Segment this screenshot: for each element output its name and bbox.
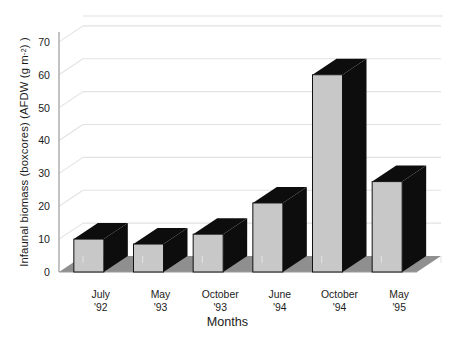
y-tick-label: 10	[28, 233, 50, 245]
x-tick-year: '95	[360, 301, 438, 314]
x-tick-month: May	[360, 288, 438, 301]
gridline-depth	[59, 92, 83, 108]
bar-side-face	[343, 59, 367, 272]
y-tick-label: 70	[28, 36, 50, 48]
bar-4	[313, 59, 367, 272]
plot-area	[57, 14, 445, 286]
x-axis-title: Months	[0, 315, 455, 329]
gridline-depth	[59, 190, 83, 206]
gridline-depth	[59, 59, 83, 75]
gridline-depth	[59, 26, 83, 42]
bars-group	[74, 59, 426, 272]
y-tick-label: 30	[28, 167, 50, 179]
y-tick-label: 50	[28, 102, 50, 114]
bar-side-face	[402, 166, 426, 272]
plot-svg	[57, 14, 445, 286]
bar-5	[372, 166, 426, 272]
y-tick-label: 60	[28, 69, 50, 81]
bar-front-face	[193, 234, 223, 272]
gridline-depth	[59, 157, 83, 173]
bar-front-face	[313, 75, 343, 272]
bar-front-face	[134, 244, 164, 272]
bar-front-face	[253, 203, 283, 272]
gridline-depth	[59, 124, 83, 140]
bar-3	[253, 187, 307, 272]
y-tick-label: 0	[28, 266, 50, 278]
bar-front-face	[74, 239, 104, 272]
y-tick-label: 40	[28, 134, 50, 146]
bar-front-face	[372, 182, 402, 272]
x-tick-label: May'95	[360, 288, 438, 314]
bar-chart: Infaunal biomass (boxcores) (AFDW (g m-2…	[0, 0, 455, 342]
y-axis-tick-labels: 010203040506070	[28, 0, 50, 342]
y-tick-label: 20	[28, 200, 50, 212]
